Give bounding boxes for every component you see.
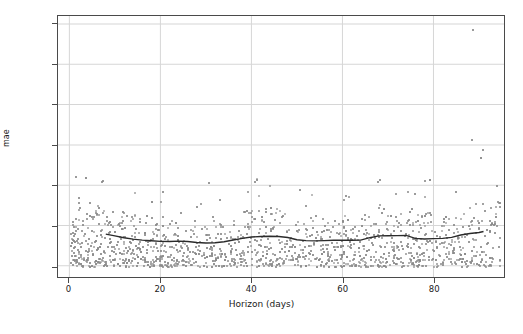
matplotlib-figure: mae 050010001500200025003000 020406080 H… [0, 0, 523, 334]
x-tick-mark [251, 278, 252, 283]
rolling-mean-line [106, 231, 484, 243]
x-tick-mark [434, 278, 435, 283]
x-tick-label: 0 [66, 284, 71, 294]
trend-line [58, 16, 504, 277]
x-tick-mark [160, 278, 161, 283]
x-tick-mark [68, 278, 69, 283]
x-tick-mark [343, 278, 344, 283]
plot-area [57, 15, 505, 278]
x-tick-label: 60 [337, 284, 348, 294]
x-axis-label: Horizon (days) [0, 299, 523, 309]
y-axis-label: mae [2, 129, 11, 147]
x-tick-label: 20 [154, 284, 165, 294]
x-tick-label: 80 [429, 284, 440, 294]
x-tick-label: 40 [246, 284, 257, 294]
